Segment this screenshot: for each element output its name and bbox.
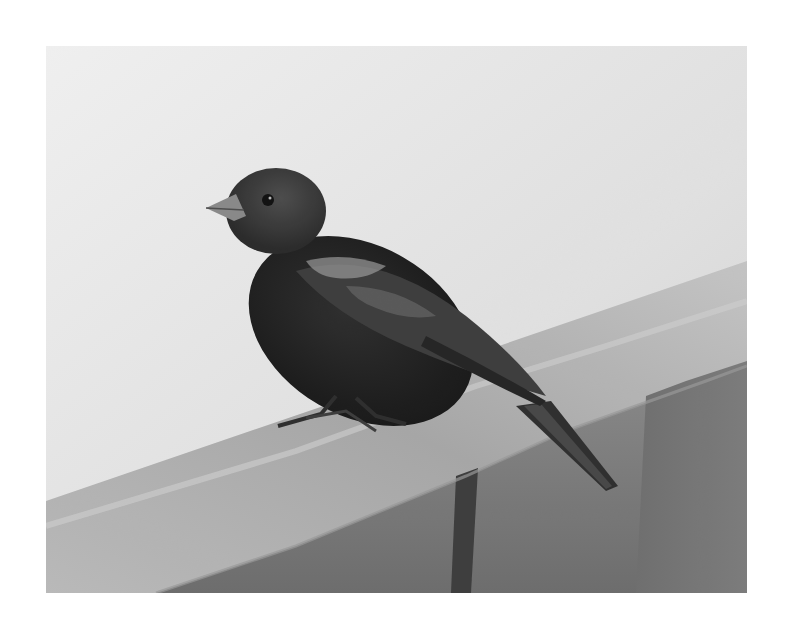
- page: A dark songbird with a short conical bea…: [0, 0, 789, 632]
- photo-illustration: [46, 46, 747, 593]
- bird-photo: A dark songbird with a short conical bea…: [46, 46, 747, 593]
